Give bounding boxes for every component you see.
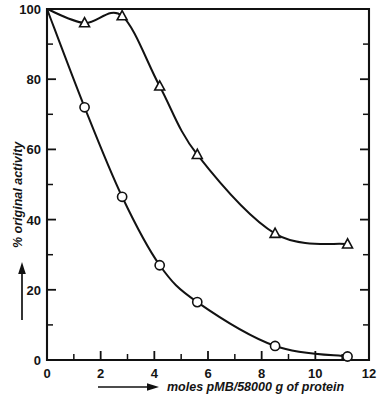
y-axis-title-group: % original activity [11,141,26,320]
y-axis-title: % original activity [11,141,25,248]
y-tick-label: 60 [27,142,41,157]
circle-marker [118,192,127,201]
circle-marker [343,352,352,361]
triangle-marker [155,81,165,90]
circle-marker [270,341,279,350]
x-axis-tick-labels: 024681012 [43,366,376,381]
circle-marker [155,261,164,270]
plot-frame [47,9,369,360]
x-tick-label: 8 [258,366,265,381]
y-tick-label: 40 [27,213,41,228]
right-axis-ticks [360,9,369,325]
x-tick-label: 0 [43,366,50,381]
circle-marker [193,297,202,306]
y-tick-label: 0 [34,353,41,368]
x-axis-title-group: moles pMB/58000 g of protein [98,380,344,394]
circle-series-markers [80,103,352,361]
x-tick-label: 12 [362,366,376,381]
triangle-marker [270,228,280,237]
activity-inhibition-chart: 020406080100 024681012 % original activi… [0,0,387,403]
x-tick-label: 6 [204,366,211,381]
y-axis-ticks [47,9,56,325]
x-axis-arrow-head [147,383,159,391]
y-axis-arrow-head [18,262,26,274]
y-tick-label: 80 [27,72,41,87]
figure-panel: 020406080100 024681012 % original activi… [0,0,387,403]
x-tick-label: 10 [308,366,322,381]
triangle-marker [117,11,127,20]
x-axis-title: moles pMB/58000 g of protein [167,380,344,394]
x-tick-label: 2 [97,366,104,381]
frame-border [47,9,369,360]
y-tick-label: 20 [27,283,41,298]
triangle-series-markers [80,11,353,248]
y-tick-label: 100 [19,2,41,17]
circle-marker [80,103,89,112]
x-tick-label: 4 [151,366,159,381]
